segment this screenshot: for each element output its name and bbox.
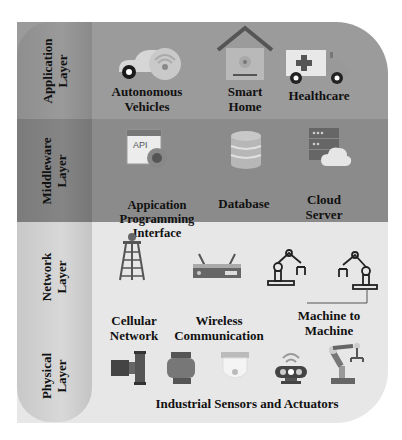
iot-architecture-diagram: Application Layer Middleware Layer Netwo… — [17, 22, 388, 423]
cloud-server-label: Cloud Server — [287, 192, 361, 222]
cloud-server-icon — [307, 126, 353, 172]
cell-tower-icon — [117, 232, 147, 282]
api-badge-text: API — [133, 140, 148, 150]
physical-layer-label: Physical Layer — [17, 330, 92, 422]
pump-icon — [109, 350, 149, 386]
autonomous-car-icon — [115, 42, 185, 82]
industrial-sensors-label: Industrial Sensors and Actuators — [117, 396, 377, 411]
camera-sensor-icon — [219, 350, 251, 386]
middleware-layer-label: Middleware Layer — [17, 119, 92, 222]
database-icon — [229, 130, 263, 170]
api-gear-icon: API — [125, 128, 173, 170]
robot-arm-icon — [323, 342, 367, 386]
autonomous-vehicles-label: Autonomous Vehicles — [101, 84, 193, 114]
ambulance-icon — [284, 46, 350, 86]
application-layer-label: Application Layer — [17, 22, 92, 119]
healthcare-label: Healthcare — [279, 88, 359, 103]
smart-home-icon — [216, 24, 274, 82]
router-icon — [191, 252, 243, 282]
smart-home-label: Smart Home — [207, 84, 283, 114]
cellular-network-label: Cellular Network — [99, 313, 169, 343]
motor-icon — [163, 350, 199, 386]
database-label: Database — [205, 196, 283, 211]
machine-to-machine-label: Machine to Machine — [279, 308, 379, 338]
wireless-sensor-icon — [273, 348, 309, 386]
robot-arms-icon — [267, 249, 379, 309]
network-layer-label: Network Layer — [17, 222, 92, 332]
wireless-communication-label: Wireless Communication — [169, 313, 269, 343]
